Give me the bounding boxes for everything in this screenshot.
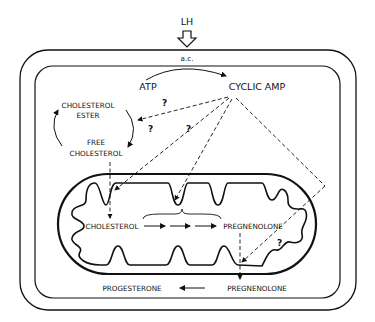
camp-right-line [236, 98, 325, 186]
enzyme-brace [143, 209, 221, 219]
ester-to-free-arrow [126, 110, 134, 147]
free-cholesterol-label-2: CHOLESTEROL [70, 149, 123, 158]
mito-cholesterol-label: CHOLESTEROL [86, 222, 139, 231]
lh-arrow-icon [178, 31, 196, 47]
atp-label: ATP [139, 81, 157, 92]
camp-to-side-chain-cleavage-arrow [175, 99, 232, 200]
outer-membrane [20, 50, 356, 310]
camp-to-esterase-arrow [138, 97, 228, 120]
steroidogenesis-diagram: LH a.c. ATP CYCLIC AMP CHOLESTEROL ESTER… [0, 0, 375, 322]
question-mark-4: ? [277, 238, 282, 248]
lh-label: LH [181, 16, 193, 27]
free-to-ester-arrow [54, 110, 62, 146]
mito-pregnenolone-label: PREGNENOLONE [223, 222, 283, 231]
cholesterol-ester-label-2: ESTER [76, 111, 99, 120]
question-mark-3: ? [186, 124, 191, 134]
atp-to-camp-arrow [146, 69, 226, 80]
cytoplasm-pregnenolone-label: PREGNENOLONE [227, 284, 287, 293]
camp-to-mito-entry-arrow [115, 98, 229, 190]
cholesterol-ester-label-1: CHOLESTEROL [62, 101, 115, 110]
adenylate-cyclase-label: a.c. [181, 54, 194, 63]
question-mark-2: ? [148, 124, 153, 134]
question-mark-1: ? [162, 98, 167, 108]
cyclic-amp-label: CYCLIC AMP [229, 81, 286, 92]
free-cholesterol-label-1: FREE [87, 138, 106, 147]
progesterone-label: PROGESTERONE [102, 284, 162, 293]
